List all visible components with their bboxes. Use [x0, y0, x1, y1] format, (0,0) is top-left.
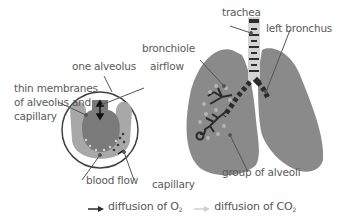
label-capillary: capillary: [152, 178, 195, 191]
label-thin-membranes-1: thin membranes: [14, 82, 98, 95]
label-airflow: airflow: [150, 60, 184, 73]
label-left-bronchus: left bronchus: [266, 22, 332, 35]
label-thin-membranes-3: capillary: [14, 110, 57, 123]
label-blood-flow: blood flow: [86, 174, 138, 187]
o2-arrow-icon: [88, 203, 104, 211]
label-one-alveolus: one alveolus: [72, 60, 136, 73]
label-bronchiole: bronchiole: [142, 42, 195, 55]
label-trachea: trachea: [222, 6, 261, 19]
label-thin-membranes-2: of alveolus and: [14, 96, 91, 109]
co2-arrow-icon: [194, 203, 210, 211]
legend-o2: diffusion of O2: [108, 200, 182, 213]
legend-co2: diffusion of CO2: [214, 200, 296, 213]
legend: diffusion of O2 diffusion of CO2: [88, 200, 296, 213]
left-lung: [258, 48, 323, 171]
label-group-of-alveoli: group of alveoli: [222, 166, 300, 179]
